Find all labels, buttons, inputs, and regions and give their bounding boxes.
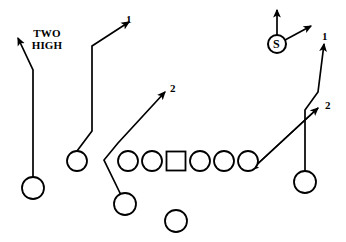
receiver-split-right	[294, 171, 316, 193]
route-label-under-2: 2	[170, 83, 176, 94]
coverage-label-line2: HIGH	[24, 40, 70, 52]
lineman-left-end	[118, 151, 138, 171]
route-slot-left-seam	[77, 22, 129, 151]
receiver-slot-left	[67, 151, 87, 171]
route-split-left-vertical-out	[18, 38, 33, 177]
back-near	[114, 193, 136, 215]
lineman-right-tackle	[190, 151, 210, 171]
route-under-to-back	[104, 92, 165, 193]
coverage-label: TWO HIGH	[24, 28, 70, 51]
receiver-split-left	[22, 177, 44, 199]
football-play-diagram: TWO HIGH S 1 2 1 2	[0, 0, 346, 242]
safety-diagonal-drop	[285, 26, 311, 40]
lineman-left-tackle	[142, 151, 162, 171]
coverage-label-line1: TWO	[24, 28, 70, 40]
route-split-right-vertical	[305, 44, 324, 171]
route-label-right-2: 2	[325, 100, 331, 111]
route-label-slot-left-1: 1	[126, 14, 132, 25]
back-far	[165, 210, 187, 232]
lineman-right-end	[238, 151, 258, 171]
route-right-in-breaking-tail	[251, 108, 318, 170]
route-label-right-1: 1	[322, 31, 328, 42]
center	[167, 152, 186, 171]
lineman-right-guard	[214, 151, 234, 171]
safety-letter: S	[273, 38, 280, 50]
